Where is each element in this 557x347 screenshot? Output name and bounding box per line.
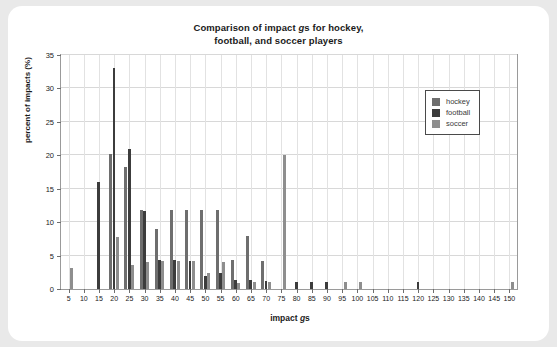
x-axis-tick-mark (190, 289, 191, 293)
y-axis-label: percent of impacts (%) (23, 57, 32, 143)
gridline-vertical (266, 55, 267, 289)
x-axis-tick-mark (205, 289, 206, 293)
x-axis-tick-label: 55 (217, 295, 225, 302)
x-axis-tick-mark (84, 289, 85, 293)
x-axis-tick-label: 120 (412, 295, 424, 302)
y-axis-tick-mark (57, 189, 61, 190)
chart-title: Comparison of impact gs for hockey, foot… (8, 22, 549, 47)
x-axis-tick-mark (509, 289, 510, 293)
gridline-vertical (160, 55, 161, 289)
y-axis-tick-mark (57, 88, 61, 89)
y-axis-tick-label: 5 (14, 251, 54, 260)
x-axis-tick-mark (236, 289, 237, 293)
x-axis-tick-label: 75 (277, 295, 285, 302)
x-axis-tick-label: 30 (141, 295, 149, 302)
gridline-vertical (297, 55, 298, 289)
y-axis-tick-label: 30 (14, 84, 54, 93)
gridline-vertical (342, 55, 343, 289)
gridline-vertical (418, 55, 419, 289)
gridline-vertical (494, 55, 495, 289)
legend-item-soccer: soccer (432, 118, 470, 129)
bar-soccer-75 (283, 155, 286, 289)
y-axis-tick-mark (57, 55, 61, 56)
x-axis-tick-label: 65 (247, 295, 255, 302)
y-axis-tick-mark (57, 155, 61, 156)
chart-title-line1-pre: Comparison of impact (193, 22, 298, 33)
bar-soccer-35 (161, 261, 164, 289)
bar-soccer-20 (116, 237, 119, 289)
x-axis-tick-mark (266, 289, 267, 293)
x-axis-tick-mark (297, 289, 298, 293)
x-axis-tick-mark (418, 289, 419, 293)
bar-football-80 (295, 282, 298, 289)
legend-label-hockey: hockey (446, 97, 470, 106)
x-axis-tick-label: 45 (186, 295, 194, 302)
gridline-vertical (373, 55, 374, 289)
bar-soccer-25 (131, 265, 134, 289)
x-axis-tick-label: 15 (95, 295, 103, 302)
x-axis-tick-label: 80 (293, 295, 301, 302)
gridline-vertical (403, 55, 404, 289)
gridline-vertical (312, 55, 313, 289)
x-axis-tick-label: 25 (125, 295, 133, 302)
x-axis-tick-mark (373, 289, 374, 293)
x-axis-tick-label: 40 (171, 295, 179, 302)
y-axis-tick-label: 25 (14, 117, 54, 126)
legend-item-hockey: hockey (432, 96, 470, 107)
y-axis-tick-mark (57, 256, 61, 257)
chart-title-line2: football, and soccer players (214, 35, 342, 46)
bar-soccer-60 (237, 283, 240, 289)
gridline-vertical (221, 55, 222, 289)
x-axis-tick-mark (494, 289, 495, 293)
x-axis-tick-mark (403, 289, 404, 293)
x-axis-tick-label: 5 (67, 295, 71, 302)
x-axis-tick-mark (145, 289, 146, 293)
gridline-vertical (251, 55, 252, 289)
bar-soccer-70 (268, 282, 271, 289)
x-axis-tick-label: 60 (232, 295, 240, 302)
x-axis-tick-label: 150 (504, 295, 516, 302)
bar-soccer-50 (207, 273, 210, 289)
gridline-vertical (205, 55, 206, 289)
x-axis-tick-mark (449, 289, 450, 293)
chart-card: Comparison of impact gs for hockey, foot… (8, 6, 549, 341)
x-axis-tick-label: 105 (367, 295, 379, 302)
x-axis-tick-mark (175, 289, 176, 293)
gridline-vertical (69, 55, 70, 289)
bar-football-120 (417, 282, 420, 289)
y-axis-tick-mark (57, 289, 61, 290)
x-axis-tick-mark (251, 289, 252, 293)
legend-swatch-hockey (432, 98, 440, 106)
bar-soccer-30 (146, 262, 149, 289)
legend-label-soccer: soccer (446, 119, 468, 128)
y-axis-tick-mark (57, 222, 61, 223)
gridline-vertical (175, 55, 176, 289)
x-axis-tick-label: 100 (352, 295, 364, 302)
gridline-vertical (509, 55, 510, 289)
bar-soccer-65 (253, 282, 256, 289)
legend-swatch-soccer (432, 120, 440, 128)
bar-football-85 (310, 282, 313, 289)
x-axis-tick-label: 95 (338, 295, 346, 302)
x-axis-tick-label: 85 (308, 295, 316, 302)
x-axis-label: impact gs (61, 313, 519, 323)
x-axis-tick-label: 135 (458, 295, 470, 302)
x-axis-tick-label: 110 (382, 295, 393, 302)
x-axis-tick-label: 50 (201, 295, 209, 302)
x-axis-tick-mark (129, 289, 130, 293)
chart-title-line1-post: s for hockey, (304, 22, 363, 33)
legend-item-football: football (432, 107, 470, 118)
gridline-vertical (84, 55, 85, 289)
bar-football-90 (325, 282, 328, 289)
x-axis-tick-mark (281, 289, 282, 293)
chart-legend: hockeyfootballsoccer (425, 90, 480, 135)
y-axis-tick-label: 20 (14, 151, 54, 160)
gridline-vertical (236, 55, 237, 289)
bar-soccer-100 (359, 282, 362, 289)
x-axis-tick-mark (433, 289, 434, 293)
bar-soccer-40 (177, 261, 180, 289)
x-axis-tick-mark (160, 289, 161, 293)
x-axis-tick-label: 115 (397, 295, 408, 302)
x-axis-tick-mark (221, 289, 222, 293)
x-axis-tick-label: 10 (80, 295, 88, 302)
